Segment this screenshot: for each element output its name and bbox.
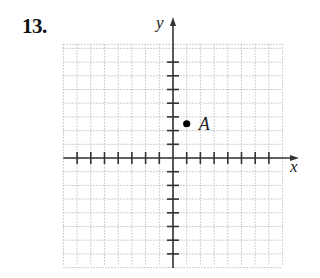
point-label: A — [198, 114, 211, 134]
axes — [63, 17, 299, 268]
y-axis-label: y — [154, 13, 164, 32]
x-axis-label: x — [289, 157, 298, 176]
point-dot-icon — [183, 120, 190, 127]
y-axis-arrow-icon — [170, 17, 176, 26]
coordinate-plane: x y A — [0, 0, 320, 278]
